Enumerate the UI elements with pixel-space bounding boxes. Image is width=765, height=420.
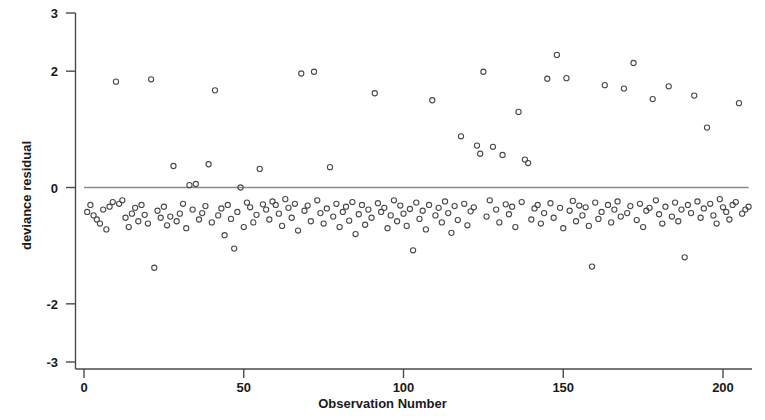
data-point (625, 210, 630, 215)
data-point (487, 198, 492, 203)
data-point (337, 224, 342, 229)
data-point (554, 52, 559, 57)
data-point (439, 220, 444, 225)
data-point (474, 143, 479, 148)
data-point (110, 199, 115, 204)
data-point (244, 200, 249, 205)
data-point (570, 198, 575, 203)
plot-canvas: 320-2-3 050100150200 (0, 0, 765, 420)
data-point (101, 207, 106, 212)
data-point (251, 220, 256, 225)
data-point (372, 91, 377, 96)
data-point (583, 205, 588, 210)
data-point (286, 205, 291, 210)
data-point (612, 207, 617, 212)
data-point (561, 226, 566, 231)
data-point (299, 71, 304, 76)
data-point (264, 207, 269, 212)
data-point-group (85, 52, 752, 270)
data-point (746, 204, 751, 209)
data-point (637, 201, 642, 206)
data-point (653, 198, 658, 203)
data-point (228, 216, 233, 221)
data-point (449, 230, 454, 235)
data-point (458, 134, 463, 139)
data-point (605, 202, 610, 207)
data-point (494, 207, 499, 212)
y-tick-label: -3 (46, 355, 58, 370)
data-point (535, 202, 540, 207)
data-point (88, 202, 93, 207)
data-point (248, 205, 253, 210)
data-point (177, 211, 182, 216)
data-point (369, 215, 374, 220)
data-point (704, 125, 709, 130)
data-point (315, 198, 320, 203)
data-point (145, 221, 150, 226)
data-point (657, 212, 662, 217)
data-point (340, 209, 345, 214)
data-point (688, 210, 693, 215)
data-point (621, 86, 626, 91)
data-point (676, 219, 681, 224)
data-point (305, 203, 310, 208)
data-point (311, 69, 316, 74)
data-point (104, 227, 109, 232)
data-point (743, 207, 748, 212)
data-point (446, 210, 451, 215)
data-point (634, 217, 639, 222)
data-point (541, 210, 546, 215)
data-point (698, 215, 703, 220)
data-point (692, 93, 697, 98)
data-point (324, 206, 329, 211)
data-point (85, 209, 90, 214)
data-point (529, 217, 534, 222)
data-point (302, 208, 307, 213)
data-point (142, 212, 147, 217)
data-point (503, 202, 508, 207)
data-point (538, 221, 543, 226)
data-point (375, 201, 380, 206)
data-point (580, 213, 585, 218)
x-axis-title: Observation Number (0, 396, 765, 411)
data-point (120, 198, 125, 203)
y-tick-group: 320-2-3 (46, 6, 75, 370)
data-point (359, 202, 364, 207)
data-point (436, 205, 441, 210)
data-point (222, 233, 227, 238)
data-point (356, 212, 361, 217)
y-tick-label: 2 (51, 64, 58, 79)
data-point (129, 211, 134, 216)
data-point (599, 209, 604, 214)
data-point (727, 217, 732, 222)
data-point (321, 221, 326, 226)
data-point (292, 201, 297, 206)
data-point (519, 199, 524, 204)
data-point (513, 224, 518, 229)
data-point (545, 76, 550, 81)
data-point (577, 203, 582, 208)
data-point (628, 204, 633, 209)
data-point (407, 206, 412, 211)
data-point (465, 223, 470, 228)
data-point (200, 210, 205, 215)
data-point (733, 199, 738, 204)
data-point (426, 202, 431, 207)
data-point (602, 83, 607, 88)
data-point (701, 206, 706, 211)
x-tick-group: 050100150200 (80, 369, 733, 395)
data-point (609, 220, 614, 225)
data-point (254, 212, 259, 217)
data-point (276, 211, 281, 216)
data-point (478, 151, 483, 156)
data-point (295, 228, 300, 233)
data-point (257, 166, 262, 171)
data-point (343, 204, 348, 209)
data-point (506, 212, 511, 217)
data-point (551, 215, 556, 220)
data-point (174, 219, 179, 224)
data-point (695, 199, 700, 204)
data-point (404, 223, 409, 228)
y-tick-label: 3 (51, 6, 58, 21)
data-point (647, 205, 652, 210)
